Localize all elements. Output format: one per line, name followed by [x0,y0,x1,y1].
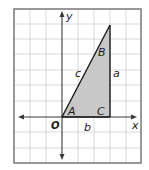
x-axis-left-arrow-icon [18,115,24,120]
axes [18,11,137,160]
y-axis-down-arrow-icon [60,154,65,160]
vertex-label-b: B [98,46,106,59]
y-axis-label: y [65,10,73,23]
vertex-label-c: C [97,105,105,118]
side-label-a: a [113,67,120,80]
origin-label: O [51,120,60,131]
side-label-c: c [75,67,81,80]
vertex-label-a: A [67,105,76,118]
y-axis-up-arrow-icon [60,11,65,17]
side-label-b: b [84,121,91,134]
x-axis-label: x [131,119,139,132]
coordinate-plane-diagram: y x O A C B c a b [0,0,149,170]
